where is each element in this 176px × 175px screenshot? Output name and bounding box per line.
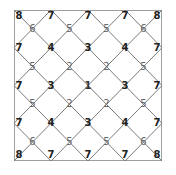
cell-label: 6 <box>29 24 35 34</box>
vertex-label: 8 <box>16 150 23 160</box>
vertex-label: 7 <box>85 11 92 21</box>
vertex-label: 8 <box>16 11 23 21</box>
diagonal-line <box>88 10 176 161</box>
vertex-label: 7 <box>122 150 129 160</box>
cell-label: 5 <box>66 24 72 34</box>
vertex-label: 8 <box>154 11 161 21</box>
cell-label: 2 <box>66 99 72 109</box>
vertex-label: 3 <box>122 81 129 91</box>
vertex-label: 7 <box>154 43 161 53</box>
vertex-label: 3 <box>85 118 92 128</box>
diagonal-line <box>125 10 176 161</box>
cell-label: 5 <box>103 137 109 147</box>
cell-label: 5 <box>103 24 109 34</box>
vertex-label: 4 <box>122 118 129 128</box>
cell-label: 5 <box>66 137 72 147</box>
diagonal-line <box>162 10 176 161</box>
vertex-label: 7 <box>16 118 23 128</box>
vertex-label: 4 <box>48 118 55 128</box>
cell-label: 5 <box>140 99 146 109</box>
diagonal-line <box>0 10 51 161</box>
vertex-label: 4 <box>48 43 55 53</box>
vertex-label: 7 <box>16 43 23 53</box>
vertex-label: 3 <box>85 43 92 53</box>
diagonal-line <box>0 10 14 161</box>
vertex-label: 4 <box>122 43 129 53</box>
cell-label: 5 <box>140 62 146 72</box>
diagonal-line <box>88 10 176 161</box>
vertex-label: 7 <box>122 11 129 21</box>
diagonal-line <box>0 10 14 161</box>
vertex-label: 7 <box>154 81 161 91</box>
diagonal-line <box>125 10 176 161</box>
vertex-label: 8 <box>154 150 161 160</box>
cell-label: 2 <box>66 62 72 72</box>
cell-label: 6 <box>29 137 35 147</box>
vertex-label: 7 <box>48 11 55 21</box>
cell-label: 6 <box>140 24 146 34</box>
cell-label: 2 <box>103 99 109 109</box>
cell-label: 5 <box>29 62 35 72</box>
cell-label: 6 <box>140 137 146 147</box>
cell-label: 5 <box>29 99 35 109</box>
vertex-label: 7 <box>48 150 55 160</box>
diagonal-line <box>0 10 88 161</box>
diagonal-line <box>0 10 51 161</box>
vertex-label: 7 <box>16 81 23 91</box>
vertex-label: 3 <box>48 81 55 91</box>
vertex-label: 7 <box>85 150 92 160</box>
diagonal-line <box>162 10 176 161</box>
vertex-label: 1 <box>85 81 92 91</box>
diagonal-line <box>0 10 88 161</box>
cell-label: 2 <box>103 62 109 72</box>
vertex-label: 7 <box>154 118 161 128</box>
